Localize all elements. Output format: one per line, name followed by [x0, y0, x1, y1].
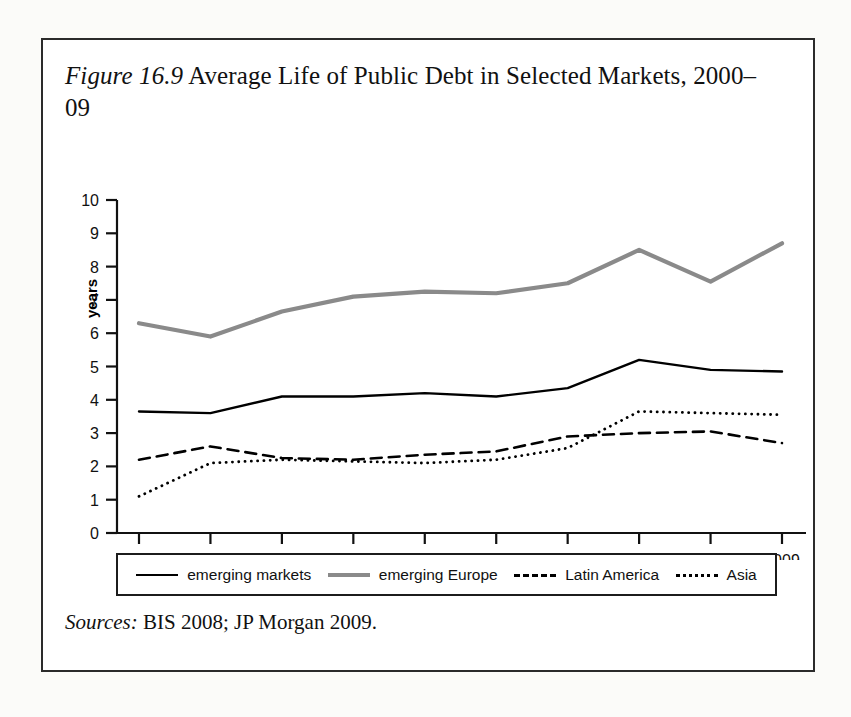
y-tick-label: 0: [90, 525, 99, 542]
line-chart-svg: 012345678910 200020012002200320042005200…: [43, 140, 817, 560]
figure-number: Figure 16.9: [65, 62, 183, 89]
legend-item-latin-america[interactable]: Latin America: [514, 566, 659, 584]
y-axis-title: years: [83, 239, 100, 359]
legend-label: emerging markets: [187, 566, 311, 584]
y-tick-label: 2: [90, 458, 99, 475]
series-line-emerging-markets: [139, 360, 782, 413]
y-tick-label: 5: [90, 359, 99, 376]
legend-swatch-dotted-line-icon: [676, 569, 718, 581]
y-tick-label: 4: [90, 392, 99, 409]
figure-frame: Figure 16.9 Average Life of Public Debt …: [41, 38, 815, 672]
source-note: Sources: BIS 2008; JP Morgan 2009.: [65, 610, 377, 635]
legend-label: emerging Europe: [379, 566, 498, 584]
y-tick-label: 10: [81, 192, 99, 209]
legend-item-emerging-europe[interactable]: emerging Europe: [328, 566, 498, 584]
legend-label: Asia: [727, 566, 757, 584]
page-canvas: Figure 16.9 Average Life of Public Debt …: [0, 0, 851, 717]
legend-swatch-dashed-line-icon: [514, 569, 556, 581]
plot-area: years 012345678910 200020012002200320042…: [43, 140, 817, 560]
y-tick-label: 1: [90, 492, 99, 509]
figure-caption: Figure 16.9 Average Life of Public Debt …: [65, 60, 765, 124]
series-line-emerging-europe: [139, 243, 782, 336]
legend-item-asia[interactable]: Asia: [676, 566, 757, 584]
source-label: Sources:: [65, 610, 138, 634]
legend-swatch-solid-line-icon: [136, 569, 178, 581]
legend-item-emerging-markets[interactable]: emerging markets: [136, 566, 311, 584]
source-citation: BIS 2008; JP Morgan 2009.: [138, 610, 377, 634]
series-line-latin-america: [139, 431, 782, 459]
y-tick-label: 3: [90, 425, 99, 442]
chart-legend: emerging markets emerging Europe Latin A…: [116, 553, 777, 596]
legend-swatch-gray-line-icon: [328, 569, 370, 581]
series-group: [139, 243, 782, 496]
axes-group: [106, 200, 806, 544]
legend-label: Latin America: [565, 566, 659, 584]
